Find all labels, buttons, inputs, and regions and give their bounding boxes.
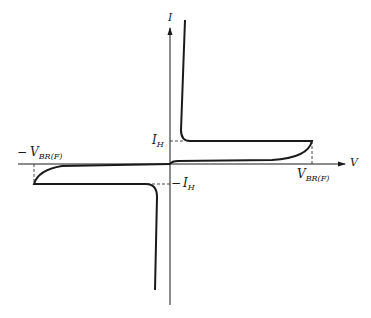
ih-neg-prefix: − bbox=[171, 176, 181, 190]
breakover-voltage-neg-label: −VBR(F) bbox=[17, 146, 62, 161]
i-axis-label: I bbox=[168, 12, 172, 23]
i-axis-label-text: I bbox=[168, 11, 172, 24]
ih-neg-sub: H bbox=[188, 183, 195, 192]
v-axis-label: V bbox=[350, 157, 358, 168]
ih-pos-sub: H bbox=[157, 140, 164, 149]
holding-current-neg-label: −IH bbox=[171, 177, 195, 192]
vbr-neg-prefix: − bbox=[17, 145, 27, 159]
vbr-neg-main: V bbox=[30, 145, 39, 159]
vbr-pos-main: V bbox=[297, 167, 306, 181]
vbr-pos-sub: BR(F) bbox=[306, 174, 330, 183]
holding-current-pos-label: IH bbox=[152, 134, 164, 149]
curve-reverse bbox=[34, 164, 170, 290]
vbr-neg-sub: BR(F) bbox=[39, 152, 63, 161]
v-axis-label-text: V bbox=[350, 156, 358, 169]
curve-forward bbox=[170, 20, 312, 164]
breakover-voltage-pos-label: VBR(F) bbox=[297, 168, 329, 183]
